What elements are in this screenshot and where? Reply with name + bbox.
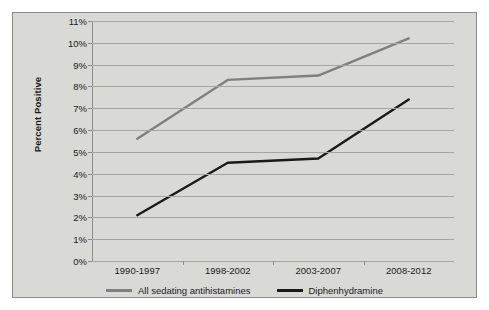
- y-axis-tick-mark: [88, 86, 92, 87]
- gridline: [92, 239, 454, 240]
- y-axis-tick-label: 5%: [73, 146, 87, 157]
- x-axis-tick-labels: 1990-19971998-20022003-20072008-2012: [92, 265, 454, 281]
- y-axis-tick-label: 3%: [73, 190, 87, 201]
- y-axis-title: Percent Positive: [32, 55, 43, 175]
- y-axis-tick-mark: [88, 196, 92, 197]
- gridline: [92, 65, 454, 66]
- y-axis-tick-mark: [88, 217, 92, 218]
- y-axis-tick-label: 6%: [73, 125, 87, 136]
- y-axis-tick-label: 9%: [73, 59, 87, 70]
- y-axis-tick-mark: [88, 65, 92, 66]
- series-line: [137, 100, 409, 216]
- chart-figure: Percent Positive 0%1%2%3%4%5%6%7%8%9%10%…: [12, 12, 477, 298]
- gridline: [92, 21, 454, 22]
- y-axis-tick-labels: 0%1%2%3%4%5%6%7%8%9%10%11%: [43, 21, 91, 261]
- y-axis-tick-mark: [88, 239, 92, 240]
- legend-line-swatch: [106, 289, 132, 292]
- legend-item[interactable]: Diphenhydramine: [277, 285, 383, 296]
- legend-line-swatch: [277, 289, 303, 292]
- y-axis-tick-label: 2%: [73, 212, 87, 223]
- series-lines: [92, 21, 454, 261]
- y-axis-tick-mark: [88, 43, 92, 44]
- plot-area: [92, 21, 454, 261]
- y-axis-tick-mark: [88, 261, 92, 262]
- gridline: [92, 108, 454, 109]
- y-axis-tick-label: 4%: [73, 168, 87, 179]
- series-line: [137, 38, 409, 138]
- y-axis-tick-mark: [88, 108, 92, 109]
- gridline: [92, 217, 454, 218]
- x-axis-tick-label: 1998-2002: [205, 265, 250, 276]
- y-axis-tick-mark: [88, 152, 92, 153]
- y-axis-tick-mark: [88, 174, 92, 175]
- gridline: [92, 174, 454, 175]
- legend-label: Diphenhydramine: [309, 285, 383, 296]
- y-axis-tick-label: 7%: [73, 103, 87, 114]
- y-axis-tick-mark: [88, 21, 92, 22]
- gridline: [92, 196, 454, 197]
- y-axis-tick-label: 11%: [69, 16, 87, 27]
- y-axis-tick-label: 1%: [73, 234, 87, 245]
- x-axis-tick-label: 1990-1997: [115, 265, 160, 276]
- gridline: [92, 130, 454, 131]
- legend-item[interactable]: All sedating antihistamines: [106, 285, 250, 296]
- gridline: [92, 43, 454, 44]
- gridline: [92, 86, 454, 87]
- y-axis-tick-mark: [88, 130, 92, 131]
- x-axis-tick-label: 2003-2007: [296, 265, 341, 276]
- y-axis-tick-label: 0%: [73, 256, 87, 267]
- x-axis-tick-label: 2008-2012: [386, 265, 431, 276]
- gridline: [92, 152, 454, 153]
- y-axis-tick-label: 10%: [68, 37, 87, 48]
- y-axis-tick-label: 8%: [73, 81, 87, 92]
- legend-label: All sedating antihistamines: [138, 285, 250, 296]
- chart-legend: All sedating antihistaminesDiphenhydrami…: [13, 285, 476, 296]
